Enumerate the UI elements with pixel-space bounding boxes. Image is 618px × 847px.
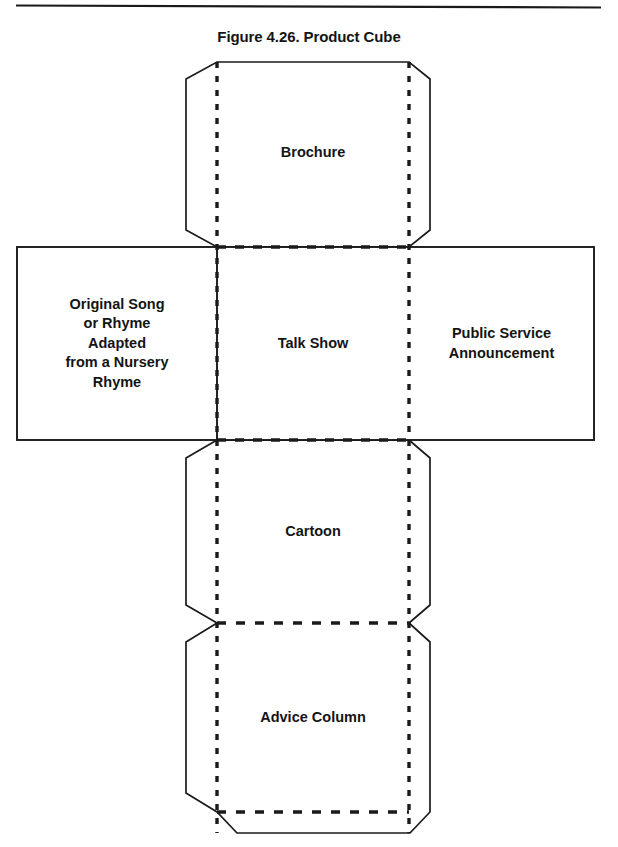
- cartoon-outline: [186, 440, 217, 623]
- panel-label-brochure: Brochure: [217, 62, 409, 244]
- panel-label-public-service-announcement: Public Service Announcement: [409, 247, 594, 440]
- panel-label-original-song: Original Song or Rhyme Adapted from a Nu…: [17, 247, 217, 440]
- cartoon-outline-right: [409, 440, 430, 623]
- page-top-rule: [16, 6, 601, 8]
- figure-page: Figure 4.26. Product Cube Brochure Origi…: [0, 0, 618, 847]
- panel-label-advice-column: Advice Column: [217, 623, 409, 812]
- figure-title: Figure 4.26. Product Cube: [0, 28, 618, 45]
- panel-label-cartoon: Cartoon: [217, 440, 409, 623]
- panel-label-talk-show: Talk Show: [217, 247, 409, 440]
